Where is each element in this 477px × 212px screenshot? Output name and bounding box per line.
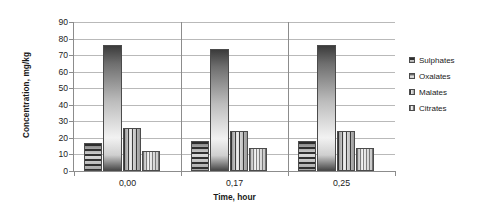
y-tick-label: 80 bbox=[42, 35, 68, 44]
y-tick-label: 10 bbox=[42, 150, 68, 159]
y-tick-mark bbox=[69, 121, 74, 122]
y-tick-mark bbox=[69, 39, 74, 40]
bar-malates-1 bbox=[230, 131, 248, 171]
y-tick-label: 50 bbox=[42, 84, 68, 93]
gridline bbox=[74, 72, 395, 73]
bar-oxalates-2 bbox=[317, 45, 335, 171]
x-tick-label-0: 0,00 bbox=[93, 179, 163, 188]
x-tick-mark bbox=[395, 171, 396, 176]
x-tick-mark bbox=[74, 171, 75, 176]
gridline bbox=[74, 121, 395, 122]
legend-item-oxalates[interactable]: Oxalates bbox=[409, 68, 475, 84]
y-tick-mark bbox=[69, 72, 74, 73]
y-tick-mark bbox=[69, 88, 74, 89]
y-tick-mark bbox=[69, 105, 74, 106]
y-tick-label: 0 bbox=[42, 167, 68, 176]
legend-label: Malates bbox=[419, 88, 447, 97]
x-tick-label-1: 0,17 bbox=[200, 179, 270, 188]
bar-citrates-0 bbox=[142, 151, 160, 171]
plot-area bbox=[74, 22, 395, 171]
y-tick-label: 70 bbox=[42, 51, 68, 60]
gridline bbox=[74, 39, 395, 40]
y-tick-label: 40 bbox=[42, 101, 68, 110]
y-tick-mark bbox=[69, 55, 74, 56]
y-tick-mark bbox=[69, 138, 74, 139]
bar-sulphates-0 bbox=[84, 143, 102, 171]
bar-chart: Concentration, mg/kg 0102030405060708090… bbox=[0, 0, 477, 212]
bar-citrates-2 bbox=[356, 148, 374, 171]
bar-sulphates-2 bbox=[298, 141, 316, 171]
legend-item-citrates[interactable]: Citrates bbox=[409, 100, 475, 116]
bar-malates-0 bbox=[123, 128, 141, 171]
sulphates-swatch-icon bbox=[409, 57, 415, 63]
gridline bbox=[74, 55, 395, 56]
citrates-swatch-icon bbox=[409, 105, 415, 111]
x-axis-title: Time, hour bbox=[74, 192, 395, 202]
gridline bbox=[74, 105, 395, 106]
bar-malates-2 bbox=[337, 131, 355, 171]
y-tick-mark bbox=[69, 171, 74, 172]
bar-citrates-1 bbox=[249, 148, 267, 171]
legend-label: Citrates bbox=[419, 104, 447, 113]
y-tick-label: 90 bbox=[42, 18, 68, 27]
category-separator bbox=[181, 22, 182, 171]
y-tick-mark bbox=[69, 154, 74, 155]
legend-item-sulphates[interactable]: Sulphates bbox=[409, 52, 475, 68]
y-tick-mark bbox=[69, 22, 74, 23]
y-tick-label: 30 bbox=[42, 117, 68, 126]
legend-label: Sulphates bbox=[419, 56, 455, 65]
category-separator bbox=[288, 22, 289, 171]
gridline bbox=[74, 22, 395, 23]
malates-swatch-icon bbox=[409, 89, 415, 95]
y-tick-label: 60 bbox=[42, 68, 68, 77]
y-axis-title: Concentration, mg/kg bbox=[22, 40, 36, 150]
oxalates-swatch-icon bbox=[409, 73, 415, 79]
x-axis-line bbox=[73, 171, 396, 172]
x-tick-mark bbox=[288, 171, 289, 176]
gridline bbox=[74, 88, 395, 89]
bar-oxalates-0 bbox=[103, 45, 121, 171]
x-tick-mark bbox=[181, 171, 182, 176]
y-tick-label: 20 bbox=[42, 134, 68, 143]
x-tick-label-2: 0,25 bbox=[307, 179, 377, 188]
bar-sulphates-1 bbox=[191, 141, 209, 171]
bar-oxalates-1 bbox=[210, 49, 228, 172]
chart-legend: SulphatesOxalatesMalatesCitrates bbox=[409, 52, 475, 116]
y-axis-tick-labels: 0102030405060708090 bbox=[40, 22, 68, 171]
legend-item-malates[interactable]: Malates bbox=[409, 84, 475, 100]
legend-label: Oxalates bbox=[419, 72, 451, 81]
